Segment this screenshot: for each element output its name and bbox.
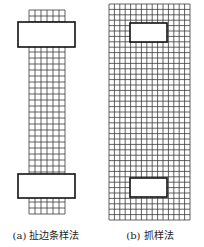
specimen-diagram [0, 0, 204, 247]
caption-grab-method: (b) 抓样法 [126, 227, 173, 242]
lower-clamp [18, 174, 75, 198]
upper-clamp [130, 23, 167, 42]
ravel-strip-specimen [18, 10, 75, 214]
upper-clamp [18, 22, 75, 47]
caption-ravel-strip-method: (a) 扯边条样法 [13, 227, 80, 242]
lower-clamp [130, 178, 167, 197]
grab-specimen [109, 4, 190, 220]
